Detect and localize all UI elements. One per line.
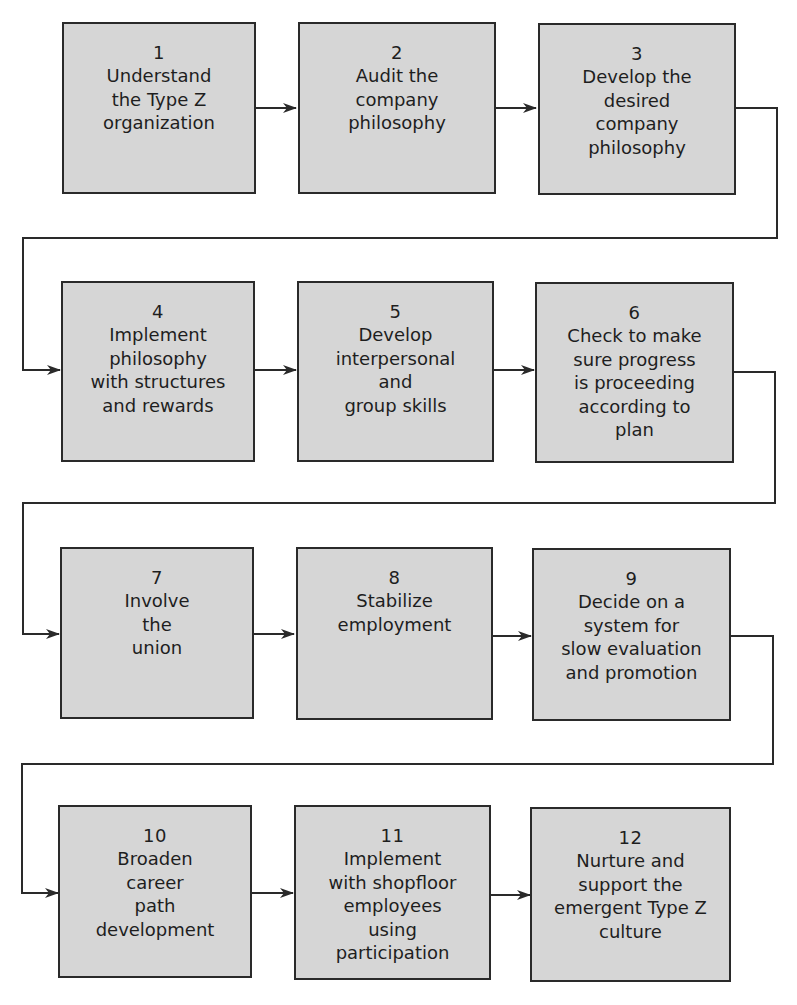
step-number: 7 xyxy=(151,567,163,589)
step-label: Implement with shopfloor employees using… xyxy=(323,847,463,965)
step-box-3: 3 Develop the desired company philosophy xyxy=(538,23,736,195)
step-number: 11 xyxy=(381,825,405,847)
step-label: Involve the union xyxy=(118,589,195,660)
step-label: Implement philosophy with structures and… xyxy=(85,323,232,417)
step-box-9: 9 Decide on a system for slow evaluation… xyxy=(532,548,731,721)
step-label: Develop interpersonal and group skills xyxy=(330,323,462,417)
step-box-1: 1 Understand the Type Z organization xyxy=(62,22,256,194)
step-label: Check to make sure progress is proceedin… xyxy=(561,324,707,442)
step-number: 5 xyxy=(390,301,402,323)
step-number: 3 xyxy=(631,43,643,65)
step-label: Understand the Type Z organization xyxy=(97,64,221,135)
step-box-5: 5 Develop interpersonal and group skills xyxy=(297,281,494,462)
step-box-7: 7 Involve the union xyxy=(60,547,254,719)
step-box-11: 11 Implement with shopfloor employees us… xyxy=(294,805,491,980)
step-box-12: 12 Nurture and support the emergent Type… xyxy=(530,807,731,982)
step-box-10: 10 Broaden career path development xyxy=(58,805,252,978)
step-box-2: 2 Audit the company philosophy xyxy=(298,22,496,194)
step-number: 2 xyxy=(391,42,403,64)
step-label: Broaden career path development xyxy=(90,847,221,941)
step-number: 6 xyxy=(629,302,641,324)
step-box-6: 6 Check to make sure progress is proceed… xyxy=(535,282,734,463)
step-number: 9 xyxy=(626,568,638,590)
type-z-flow-diagram: 1 Understand the Type Z organization 2 A… xyxy=(0,0,797,1005)
step-number: 12 xyxy=(619,827,643,849)
step-box-8: 8 Stabilize employment xyxy=(296,547,493,720)
step-label: Nurture and support the emergent Type Z … xyxy=(548,849,713,943)
step-number: 4 xyxy=(152,301,164,323)
step-box-4: 4 Implement philosophy with structures a… xyxy=(61,281,255,462)
step-label: Audit the company philosophy xyxy=(342,64,452,135)
step-label: Stabilize employment xyxy=(332,589,458,636)
step-number: 1 xyxy=(153,42,165,64)
step-number: 10 xyxy=(143,825,167,847)
step-label: Develop the desired company philosophy xyxy=(576,65,697,159)
step-number: 8 xyxy=(389,567,401,589)
step-label: Decide on a system for slow evaluation a… xyxy=(555,590,708,684)
